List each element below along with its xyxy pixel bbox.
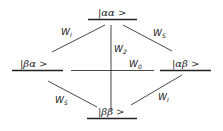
label-vertical: W2 <box>114 44 127 55</box>
label-bottom-right: WI <box>158 92 169 103</box>
transition-bottom-right <box>131 75 182 105</box>
level-label-right: |αβ > <box>172 58 199 70</box>
transition-top-left <box>52 25 105 52</box>
label-top-left: WI <box>61 27 72 38</box>
label-top-right: WS <box>153 28 166 39</box>
level-label-left: |βα > <box>20 58 47 70</box>
energy-level-diagram: |αα > |βα > |αβ > |ββ > WI WS W2 W0 WS W… <box>0 0 223 131</box>
label-bottom-left: WS <box>55 95 68 106</box>
label-horizontal: W0 <box>129 59 142 70</box>
level-label-top: |αα > <box>98 7 126 19</box>
level-label-bottom: |ββ > <box>98 106 125 118</box>
